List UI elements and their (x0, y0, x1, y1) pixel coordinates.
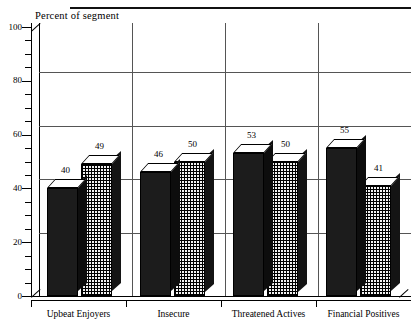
bar-side-face (171, 159, 180, 291)
bar-front-face (233, 153, 264, 296)
plot-floor-front-edge (31, 296, 411, 297)
top-rule (70, 7, 411, 9)
bar-value-label: 46 (143, 150, 174, 159)
bar-side-face (112, 151, 121, 291)
bar-value-label: 50 (270, 140, 301, 149)
category-divider (318, 23, 319, 296)
plot-corner-top-left (31, 23, 40, 32)
bar-value-label: 55 (329, 126, 360, 135)
y-axis-title: Percent of segment (35, 10, 119, 21)
x-axis-category-label: Financial Positives (316, 309, 411, 319)
bar-side-face (78, 175, 87, 291)
bar-value-label: 49 (84, 142, 115, 151)
y-axis-tick-label: 40 (0, 184, 22, 193)
y-axis-labels: 020406080100 (0, 0, 22, 321)
category-divider (132, 23, 133, 296)
bar-value-label: 53 (236, 131, 267, 140)
bar-front-face (140, 172, 171, 296)
x-axis-category-label: Insecure (126, 309, 221, 319)
y-axis-tick-label: 60 (0, 130, 22, 139)
bar (47, 188, 78, 296)
y-axis-line (31, 23, 32, 297)
y-axis-tick-label: 80 (0, 76, 22, 85)
bar-side-face (264, 140, 273, 291)
bar-value-label: 40 (50, 166, 81, 175)
x-tick (126, 300, 127, 307)
y-axis-tick-label: 100 (0, 23, 22, 32)
bar-front-face (47, 188, 78, 296)
x-axis-category-label: Upbeat Enjoyers (31, 309, 126, 319)
bar-side-face (357, 135, 366, 291)
bar-value-label: 41 (363, 164, 394, 173)
chart-root: Percent of segment 020406080100 Upbeat E… (0, 0, 411, 321)
bar-side-face (298, 148, 307, 291)
bar (140, 172, 171, 296)
x-tick (221, 300, 222, 307)
bar (326, 148, 357, 296)
bar-front-face (326, 148, 357, 296)
y-axis-tick-label: 0 (0, 292, 22, 301)
bar (233, 153, 264, 296)
x-axis-category-label: Threatened Actives (221, 309, 316, 319)
bar-side-face (205, 148, 214, 291)
y-axis-tick-label: 20 (0, 238, 22, 247)
bar-value-label: 50 (177, 140, 208, 149)
bar-side-face (391, 173, 400, 291)
category-divider (225, 23, 226, 296)
x-tick (31, 300, 32, 307)
x-tick (316, 300, 317, 307)
